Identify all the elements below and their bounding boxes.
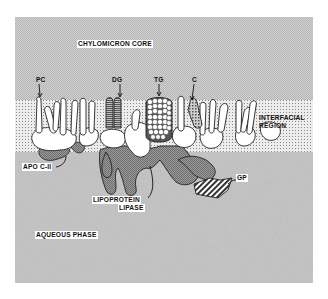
- diagram-canvas: [0, 0, 328, 299]
- label-aqueous-phase: AQUEOUS PHASE: [35, 231, 98, 239]
- label-region: REGION: [258, 122, 287, 130]
- label-gp: GP: [236, 174, 248, 182]
- label-dg: DG: [111, 76, 123, 84]
- label-lipase: LIPASE: [118, 204, 145, 212]
- label-chylomicron-core: CHYLOMICRON CORE: [77, 40, 153, 48]
- label-tg: TG: [153, 76, 165, 84]
- region-aqueous-phase: [15, 152, 313, 283]
- lipoprotein-lipase-diagram: CHYLOMICRON CORE PC DG TG C INTERFACIAL …: [0, 0, 328, 299]
- label-pc: PC: [35, 76, 47, 84]
- label-lipoprotein: LIPOPROTEIN: [92, 196, 141, 204]
- label-interfacial: INTERFACIAL: [258, 114, 306, 122]
- region-chylomicron-core: [15, 17, 313, 101]
- label-apo-c-ii: APO C-II: [22, 163, 52, 171]
- tg-triglyceride-shape: [146, 98, 172, 143]
- label-c: C: [191, 76, 198, 84]
